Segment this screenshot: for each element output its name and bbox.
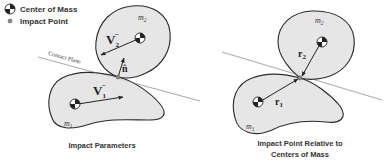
- center-of-mass-icon: [317, 37, 327, 47]
- legend-label: Impact Point: [20, 17, 68, 26]
- center-of-mass-icon: [253, 97, 263, 107]
- caption-text: Impact Parameters: [68, 141, 135, 150]
- contact-plane-label: Contact Plane: [48, 50, 82, 65]
- center-of-mass-icon: [4, 3, 16, 15]
- normal-label: n̂: [122, 63, 128, 74]
- legend-item-center-of-mass: Center of Mass: [4, 3, 77, 15]
- legend-label: Center of Mass: [20, 5, 77, 14]
- impact-point-icon: [116, 75, 120, 79]
- center-of-mass-icon: [135, 33, 145, 43]
- legend-item-impact-point: Impact Point: [4, 15, 77, 27]
- left-panel-caption: Impact Parameters: [52, 140, 152, 151]
- caption-line-1: Impact Point Relative to: [240, 138, 360, 149]
- impact-point-icon: [298, 76, 302, 80]
- caption-line-2: Centers of Mass: [240, 149, 360, 160]
- right-panel-caption: Impact Point Relative to Centers of Mass: [240, 138, 360, 160]
- legend: Center of Mass Impact Point: [4, 3, 77, 27]
- impact-point-icon: [4, 15, 16, 27]
- right-panel: m2 m1 r2 r1: [222, 11, 382, 134]
- center-of-mass-icon: [70, 99, 80, 109]
